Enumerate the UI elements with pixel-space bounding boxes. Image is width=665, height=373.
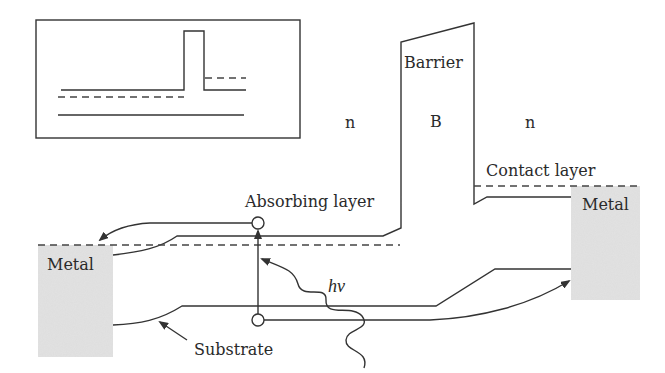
metal-contact-right: Metal (571, 186, 640, 300)
conduction-band (113, 23, 571, 255)
band-diagram: Metal Metal hν Substrate Barrier B n n C… (0, 0, 665, 373)
hole-arrow-to-right-metal (264, 281, 569, 320)
n-region-right-label: n (525, 113, 535, 132)
substrate-pointer-arrow (160, 322, 187, 340)
metal-contact-left: Metal (38, 245, 113, 357)
n-region-left-label: n (345, 113, 355, 132)
inset-conduction-band (61, 31, 246, 90)
metal-left-label: Metal (47, 255, 94, 274)
photon-wave-arrow (262, 259, 365, 368)
barrier-label: Barrier (404, 53, 463, 72)
absorbing-layer-label: Absorbing layer (244, 192, 374, 211)
electron-circle (252, 217, 264, 229)
contact-layer-label: Contact layer (486, 161, 596, 180)
barrier-region-label: B (430, 112, 442, 131)
substrate-label: Substrate (194, 340, 273, 359)
hole-circle (252, 314, 264, 326)
metal-right-label: Metal (582, 195, 629, 214)
photon-label: hν (328, 276, 345, 296)
inset-frame (36, 20, 300, 138)
inset-schematic (36, 20, 300, 138)
